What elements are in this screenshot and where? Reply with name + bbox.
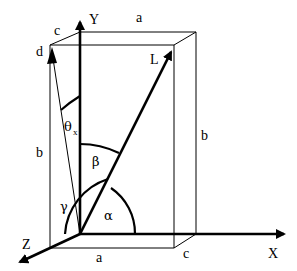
theta-x-arc [61, 96, 80, 110]
box-top-right-depth-edge [174, 32, 196, 45]
top-depth-label-c: c [54, 23, 60, 38]
box-edges [50, 32, 196, 248]
z-axis-label: Z [22, 237, 31, 252]
gamma-arc [65, 179, 108, 234]
right-height-label-b: b [201, 128, 208, 143]
gamma-label: γ [60, 199, 68, 214]
y-axis-label: Y [89, 12, 99, 27]
x-axis-label: X [268, 246, 278, 261]
projection-label-d: d [36, 44, 43, 59]
beta-label: β [92, 154, 100, 169]
beta-arc [80, 144, 119, 153]
vector-box-diagram: Y X Z a c d L b b a c α β γ θ x [0, 0, 297, 271]
vector-l [80, 52, 171, 234]
vector-label-l: L [150, 52, 159, 67]
top-width-label-a: a [136, 10, 143, 25]
theta-label: θ [64, 119, 72, 134]
left-height-label-b: b [36, 145, 43, 160]
bottom-width-label-a: a [96, 250, 103, 265]
theta-subscript: x [73, 127, 78, 137]
projection-arrowhead-d [47, 47, 57, 64]
bottom-depth-label-c: c [183, 246, 189, 261]
alpha-label: α [104, 208, 113, 223]
alpha-arc [111, 188, 135, 234]
labels: Y X Z a c d L b b a c α β γ θ x [22, 10, 278, 265]
